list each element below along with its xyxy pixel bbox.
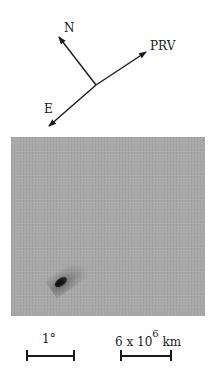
prv-arrow	[96, 52, 146, 85]
east-label: E	[44, 103, 53, 115]
angular-scale-bar: 1°	[26, 330, 74, 370]
linear-scale-bar: 6 x 106 km	[120, 330, 172, 370]
figure: N PRV E 1° 6 x 106 km	[0, 0, 213, 378]
north-label: N	[64, 22, 75, 34]
comet-photograph	[11, 137, 205, 316]
linear-scale-label: 6 x 106 km	[115, 333, 181, 348]
prv-label: PRV	[150, 40, 175, 52]
compass-arrows-icon	[0, 0, 213, 130]
film-grain	[11, 137, 205, 316]
north-arrow	[59, 37, 96, 85]
orientation-compass: N PRV E	[0, 0, 213, 130]
east-arrow	[49, 85, 96, 126]
angular-scale-label: 1°	[42, 333, 56, 345]
